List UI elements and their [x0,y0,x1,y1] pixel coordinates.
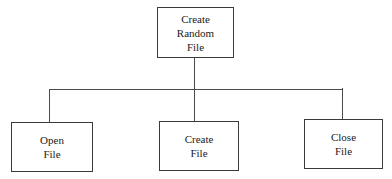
node-label-line: File [187,40,204,54]
close-file-connector [342,88,343,119]
root-connector [194,57,195,89]
node-label-line: Create [181,12,210,26]
horizontal-bus-connector [49,89,343,90]
node-label-line: Random [177,26,214,40]
node-close-file: Close File [304,119,383,169]
open-file-connector [49,89,50,122]
node-label-line: Close [331,130,356,144]
node-label-line: Open [40,133,64,147]
create-file-connector [194,89,195,121]
node-create-file: Create File [159,121,239,171]
node-open-file: Open File [11,122,93,172]
node-label-line: File [43,147,60,161]
node-create-random-file: Create Random File [157,7,234,58]
node-label-line: Create [185,132,214,146]
node-label-line: File [190,146,207,160]
node-label-line: File [335,144,352,158]
